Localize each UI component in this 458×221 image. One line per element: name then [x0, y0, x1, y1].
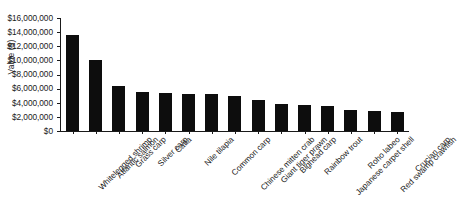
y-axis-tick-mark	[57, 89, 60, 90]
y-axis-tick-mark	[57, 32, 60, 33]
x-axis-tick-mark	[189, 131, 190, 134]
bar[interactable]	[205, 94, 218, 131]
x-axis-tick-label: Nile tilapia	[202, 135, 235, 168]
bar-slot	[107, 18, 130, 131]
y-axis-tick-label: $10,000,000	[7, 56, 53, 64]
bar-slot	[177, 18, 200, 131]
x-axis-tick-mark	[328, 131, 329, 134]
plot-area	[61, 18, 409, 131]
bar[interactable]	[228, 96, 241, 131]
bar[interactable]	[136, 92, 149, 131]
bar-slot	[154, 18, 177, 131]
y-axis-tick-label: $6,000,000	[12, 84, 53, 92]
bar[interactable]	[89, 60, 102, 131]
bar-slot	[84, 18, 107, 131]
bar-slot	[339, 18, 362, 131]
x-axis-tick-mark	[235, 131, 236, 134]
y-axis-tick-label: $14,000,000	[7, 28, 53, 36]
x-axis-tick-mark	[258, 131, 259, 134]
x-axis-tick-label: Common carp	[230, 135, 272, 177]
x-axis-tick-mark	[165, 131, 166, 134]
y-axis-tick-labels: $16,000,000$14,000,000$12,000,000$10,000…	[0, 0, 57, 221]
bar[interactable]	[298, 105, 311, 131]
bar[interactable]	[66, 35, 79, 131]
bar-slot	[316, 18, 339, 131]
x-axis-tick-mark	[397, 131, 398, 134]
x-axis-tick-mark	[351, 131, 352, 134]
x-axis-tick-mark	[119, 131, 120, 134]
bar-slot	[61, 18, 84, 131]
y-axis-tick-mark	[57, 131, 60, 132]
x-axis-tick-labels: Whitelegged shrimpAtlantic salmonGrass c…	[61, 131, 409, 221]
x-axis-tick-mark	[281, 131, 282, 134]
bar-slot	[293, 18, 316, 131]
bar-slot	[247, 18, 270, 131]
y-axis-tick-label: $8,000,000	[12, 70, 53, 78]
x-axis-tick-mark	[73, 131, 74, 134]
x-axis-tick-label: Crucian carp	[414, 135, 453, 174]
bar[interactable]	[182, 94, 195, 131]
bar-slot	[223, 18, 246, 131]
y-axis-tick-label: $16,000,000	[7, 14, 53, 22]
bar-slot	[363, 18, 386, 131]
y-axis-tick-label: $0	[44, 127, 53, 135]
bar[interactable]	[321, 106, 334, 131]
bar[interactable]	[391, 112, 404, 131]
y-axis-tick-mark	[57, 60, 60, 61]
y-axis-tick-mark	[57, 117, 60, 118]
x-axis-tick-label: Catla	[174, 135, 194, 155]
bar[interactable]	[252, 100, 265, 131]
x-axis-tick-mark	[305, 131, 306, 134]
y-axis-tick-mark	[57, 18, 60, 19]
y-axis-tick-mark	[57, 46, 60, 47]
bar[interactable]	[275, 104, 288, 131]
y-axis-tick-mark	[57, 75, 60, 76]
bar-slot	[131, 18, 154, 131]
bar[interactable]	[159, 93, 172, 131]
x-axis-tick-mark	[142, 131, 143, 134]
bar[interactable]	[344, 110, 357, 131]
bar-slot	[270, 18, 293, 131]
bar[interactable]	[368, 111, 381, 131]
y-axis-tick-label: $4,000,000	[12, 99, 53, 107]
y-axis-tick-label: $12,000,000	[7, 42, 53, 50]
bar-slot	[386, 18, 409, 131]
x-axis-tick-mark	[212, 131, 213, 134]
y-axis-tick-label: $2,000,000	[12, 113, 53, 121]
bar-slot	[200, 18, 223, 131]
x-axis-tick-mark	[96, 131, 97, 134]
y-axis-tick-mark	[57, 103, 60, 104]
x-axis-tick-mark	[374, 131, 375, 134]
bar[interactable]	[112, 86, 125, 131]
